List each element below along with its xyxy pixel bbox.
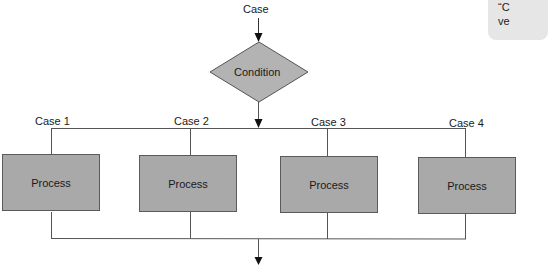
case-label-3: Case 3 bbox=[311, 116, 346, 128]
process-box-1: Process bbox=[2, 154, 100, 211]
process-label-4: Process bbox=[447, 180, 487, 192]
exit-arrowhead-icon bbox=[255, 257, 263, 265]
process-box-4: Process bbox=[418, 157, 516, 214]
process-label-3: Process bbox=[309, 179, 349, 191]
case-label-1: Case 1 bbox=[35, 115, 70, 127]
case-label-4: Case 4 bbox=[449, 117, 484, 129]
entry-arrowhead-icon bbox=[255, 33, 263, 42]
process-label-2: Process bbox=[168, 178, 208, 190]
condition-label: Condition bbox=[234, 66, 280, 78]
branch-arrowhead-icon bbox=[255, 119, 263, 128]
process-box-3: Process bbox=[280, 156, 378, 213]
merge-line-bottom bbox=[51, 239, 466, 240]
case-label-2: Case 2 bbox=[174, 115, 209, 127]
process-label-1: Process bbox=[31, 177, 71, 189]
process-box-2: Process bbox=[139, 155, 237, 212]
